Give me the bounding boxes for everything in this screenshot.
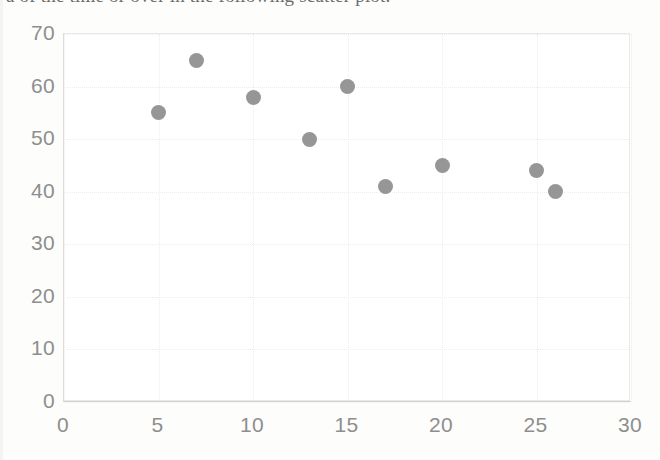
data-point bbox=[435, 158, 450, 173]
data-point bbox=[378, 179, 393, 194]
gridline-vertical bbox=[442, 34, 443, 400]
x-axis-tick-label: 10 bbox=[222, 413, 282, 437]
y-axis-line bbox=[63, 33, 64, 402]
data-point bbox=[548, 184, 563, 199]
data-point bbox=[340, 79, 355, 94]
clipped-document-text: a of the time or over in the following s… bbox=[0, 0, 660, 13]
plot-area bbox=[63, 33, 630, 401]
gridline-vertical bbox=[64, 34, 65, 400]
data-point bbox=[302, 132, 317, 147]
y-axis-tick-label: 70 bbox=[9, 21, 55, 45]
y-axis-tick-label: 60 bbox=[9, 74, 55, 98]
y-axis-tick-label: 50 bbox=[9, 126, 55, 150]
gridline-vertical bbox=[159, 34, 160, 400]
x-axis-tick-label: 0 bbox=[33, 413, 93, 437]
y-axis-tick-label: 20 bbox=[9, 284, 55, 308]
gridline-horizontal bbox=[64, 402, 629, 403]
data-point bbox=[189, 53, 204, 68]
gridline-vertical bbox=[631, 34, 632, 400]
document-text-line: a of the time or over in the following s… bbox=[6, 0, 391, 7]
gridline-horizontal bbox=[64, 244, 629, 245]
x-axis-tick-label: 20 bbox=[411, 413, 471, 437]
data-point bbox=[529, 163, 544, 178]
data-point bbox=[151, 105, 166, 120]
y-axis-tick-label: 10 bbox=[9, 336, 55, 360]
gridline-horizontal bbox=[64, 297, 629, 298]
gridline-horizontal bbox=[64, 34, 629, 35]
gridline-vertical bbox=[537, 34, 538, 400]
x-axis-tick-label: 5 bbox=[128, 413, 188, 437]
x-axis-line bbox=[63, 401, 631, 402]
x-axis-tick-label: 30 bbox=[600, 413, 660, 437]
y-axis-tick-label: 40 bbox=[9, 179, 55, 203]
y-axis-tick-label: 0 bbox=[9, 389, 55, 413]
gridline-vertical bbox=[253, 34, 254, 400]
scatter-chart: 010203040506070 051015202530 bbox=[0, 13, 660, 460]
gridline-horizontal bbox=[64, 192, 629, 193]
y-axis-tick-labels: 010203040506070 bbox=[0, 13, 55, 460]
y-axis-tick-label: 30 bbox=[9, 231, 55, 255]
gridline-horizontal bbox=[64, 349, 629, 350]
data-point bbox=[246, 90, 261, 105]
gridline-horizontal bbox=[64, 139, 629, 140]
x-axis-tick-label: 15 bbox=[317, 413, 377, 437]
x-axis-tick-label: 25 bbox=[506, 413, 566, 437]
